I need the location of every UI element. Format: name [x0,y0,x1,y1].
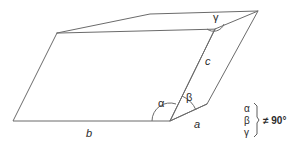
angle-label-beta: β [186,91,192,103]
legend-symbol-gamma: γ [244,127,249,138]
front-left-face [13,29,215,121]
parallelepiped-diagram: b a c α β γ α β γ ≠ 90° [0,0,301,149]
legend-brace [254,103,259,137]
crystal-cell-figure: b a c α β γ α β γ ≠ 90° [0,0,301,149]
angle-label-alpha: α [158,97,165,109]
angle-label-gamma: γ [213,11,219,23]
edge-label-c: c [205,55,211,67]
edge-label-b: b [86,127,92,139]
edge-label-a: a [194,118,200,130]
legend-relation: ≠ 90° [263,115,286,126]
legend-symbol-alpha: α [244,103,250,114]
edge-a-line [170,104,207,121]
angle-arc-gamma [207,24,224,31]
top-face-back-edge [57,11,258,33]
legend-symbol-beta: β [244,115,250,126]
